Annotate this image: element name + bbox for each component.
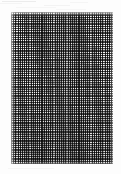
scan-noise-streak	[70, 2, 88, 3]
scan-noise-streak	[2, 1, 36, 2]
woven-mesh-specimen	[11, 12, 113, 164]
scan-noise-streak	[44, 5, 70, 6]
figure-root: Grayscale micrograph of a plain-weave me…	[0, 0, 121, 174]
scan-noise-streak	[16, 7, 56, 8]
scan-noise-streak	[8, 168, 54, 169]
scan-noise-streak	[0, 3, 22, 4]
scan-noise-streak	[56, 9, 86, 10]
weft-threads-moire-layer	[11, 12, 113, 164]
